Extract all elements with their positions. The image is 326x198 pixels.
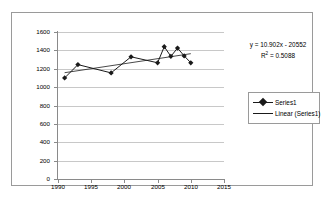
trendline-path [65,54,191,73]
series-plot [58,32,224,179]
y-axis-tick-label: 1000 [20,84,50,90]
x-axis-tick-label: 1990 [42,183,74,190]
legend-item-label: Linear (Series1) [274,110,320,117]
x-axis-tick-label: 2005 [142,183,174,190]
y-axis-tick-mark [54,50,57,51]
x-axis-line [57,179,225,180]
y-axis-tick-mark [54,161,57,162]
legend-item[interactable]: Linear (Series1) [252,108,316,119]
y-axis-tick-mark [54,142,57,143]
legend-item-label: Series1 [274,99,297,106]
x-axis-tick-label: 2015 [208,183,240,190]
legend-line-marker-icon [252,98,274,107]
series-line [65,47,191,78]
series-data-point [155,60,160,65]
legend-item[interactable]: Series1 [252,97,316,108]
y-axis-tick-label: 600 [20,121,50,127]
y-axis-tick-label: 1600 [20,29,50,35]
trendline-r-squared-text: R2 = 0.5088 [234,49,322,60]
y-axis-tick-mark [54,179,57,180]
trendline-equation-annotation: y = 10.902x - 20552 R2 = 0.5088 [234,40,322,60]
plot-area [58,32,224,179]
chart-figure: 02004006008001000120014001600 1990199520… [0,0,326,198]
y-axis-tick-mark [54,106,57,107]
y-axis-tick-label: 800 [20,103,50,109]
legend-line-icon [252,109,274,118]
chart-legend: Series1Linear (Series1) [248,92,320,124]
y-axis-tick-label: 0 [20,176,50,182]
y-axis-tick-mark [54,87,57,88]
x-axis-tick-label: 2000 [108,183,140,190]
y-axis-tick-label: 1400 [20,47,50,53]
y-axis-tick-label: 400 [20,139,50,145]
y-axis-tick-label: 1200 [20,66,50,72]
chart-plot-frame: 02004006008001000120014001600 1990199520… [11,12,313,186]
x-axis-tick-label: 1995 [75,183,107,190]
trendline-equation-text: y = 10.902x - 20552 [234,40,322,49]
y-axis-tick-mark [54,69,57,70]
r-squared-value: = 0.5088 [268,52,295,59]
y-axis-tick-mark [54,124,57,125]
y-axis-tick-mark [54,32,57,33]
x-axis-tick-label: 2010 [175,183,207,190]
y-axis-tick-label: 200 [20,158,50,164]
